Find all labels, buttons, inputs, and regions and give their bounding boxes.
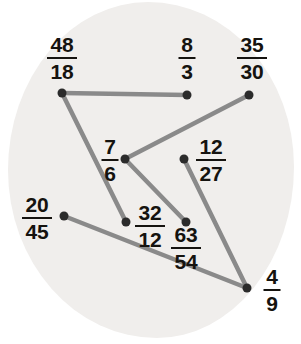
fraction-label: 76: [102, 136, 119, 184]
fraction-numerator: 4: [264, 266, 281, 287]
fraction-node-dot[interactable]: [243, 284, 252, 293]
fraction-denominator: 12: [135, 229, 165, 250]
fraction-denominator: 6: [102, 163, 119, 184]
fraction-numerator: 63: [171, 224, 201, 245]
fraction-denominator: 9: [264, 293, 281, 314]
fraction-node-dot[interactable]: [180, 155, 189, 164]
fraction-bar: [22, 217, 52, 220]
fraction-node-dot[interactable]: [58, 89, 67, 98]
fraction-numerator: 12: [196, 136, 226, 157]
fraction-label: 4818: [47, 34, 77, 82]
fraction-node-dot[interactable]: [122, 218, 131, 227]
fraction-bar: [102, 159, 119, 162]
fraction-denominator: 30: [237, 61, 267, 82]
fraction-node-dot[interactable]: [121, 155, 130, 164]
fraction-label: 1227: [196, 136, 226, 184]
fraction-denominator: 45: [22, 221, 52, 242]
fraction-label: 6354: [171, 224, 201, 272]
fraction-bar: [196, 159, 226, 162]
fraction-denominator: 27: [196, 163, 226, 184]
fraction-numerator: 32: [135, 202, 165, 223]
fraction-denominator: 3: [179, 61, 196, 82]
fraction-bar: [171, 247, 201, 250]
fraction-node-dot[interactable]: [183, 91, 192, 100]
fraction-bar: [237, 57, 267, 60]
fraction-numerator: 20: [22, 194, 52, 215]
worksheet-canvas: 481883353076122720453212635449: [0, 0, 301, 344]
fraction-denominator: 18: [47, 61, 77, 82]
fraction-numerator: 7: [102, 136, 119, 157]
fraction-label: 49: [264, 266, 281, 314]
fraction-label: 83: [179, 34, 196, 82]
fraction-node-dot[interactable]: [182, 218, 191, 227]
fraction-bar: [179, 57, 196, 60]
fraction-numerator: 35: [237, 34, 267, 55]
fraction-label: 3212: [135, 202, 165, 250]
fraction-bar: [47, 57, 77, 60]
connection-line[interactable]: [62, 93, 187, 95]
fraction-bar: [264, 289, 281, 292]
fraction-node-dot[interactable]: [245, 91, 254, 100]
fraction-label: 3530: [237, 34, 267, 82]
fraction-numerator: 8: [179, 34, 196, 55]
fraction-node-dot[interactable]: [60, 212, 69, 221]
connection-line[interactable]: [125, 95, 249, 159]
fraction-bar: [135, 225, 165, 228]
fraction-numerator: 48: [47, 34, 77, 55]
fraction-denominator: 54: [171, 251, 201, 272]
fraction-label: 2045: [22, 194, 52, 242]
